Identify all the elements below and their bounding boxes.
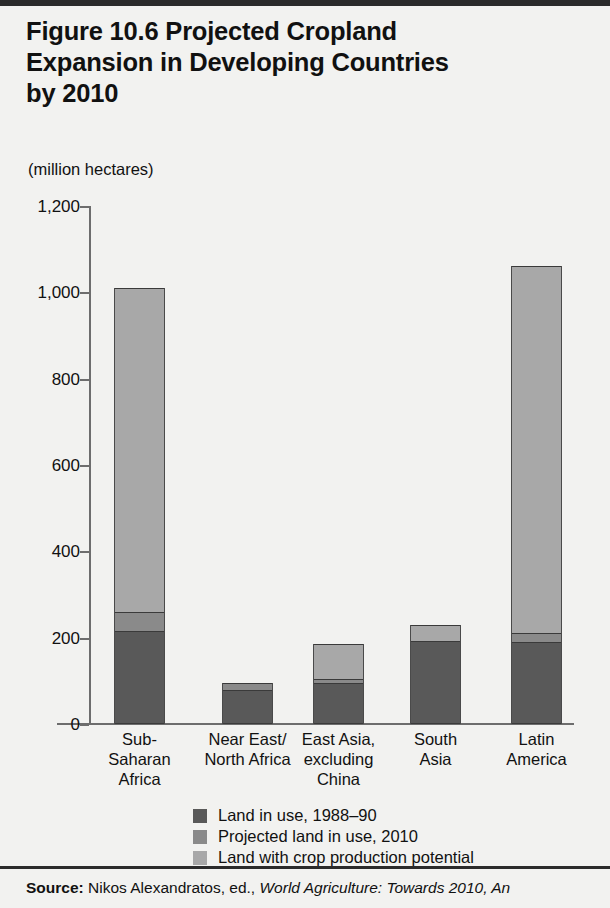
y-axis-line xyxy=(89,206,91,725)
bar-1[interactable] xyxy=(114,206,165,724)
figure-container: Figure 10.6 Projected Cropland Expansion… xyxy=(0,0,610,908)
y-axis-tick: 200 xyxy=(0,638,80,639)
bar-outline xyxy=(313,644,314,724)
category-label-line: Sub- xyxy=(80,729,200,749)
bar-segment[interactable] xyxy=(511,642,562,724)
bar-segment[interactable] xyxy=(511,266,562,633)
category-label-line: Africa xyxy=(80,769,200,789)
bar-segment[interactable] xyxy=(114,612,165,631)
chart-legend: Land in use, 1988–90Projected land in us… xyxy=(193,806,474,869)
bar-segment[interactable] xyxy=(114,631,165,724)
bar-segment[interactable] xyxy=(410,641,461,724)
y-axis-tick-mark xyxy=(80,206,89,208)
y-axis-tick: 1,000 xyxy=(0,292,80,293)
y-axis-tick-label: 1,000 xyxy=(10,283,80,303)
bar-outline xyxy=(363,644,364,724)
y-axis-tick: 1,200 xyxy=(0,206,80,207)
y-axis-tick-label: 0 xyxy=(10,715,80,735)
y-axis-tick-label: 1,200 xyxy=(10,197,80,217)
bar-segment[interactable] xyxy=(511,633,562,642)
y-axis-tick-mark xyxy=(80,638,89,640)
source-note: Source: Nikos Alexandratos, ed., World A… xyxy=(26,878,510,897)
source-title: World Agriculture: Towards 2010, An xyxy=(259,879,510,896)
legend-label: Land in use, 1988–90 xyxy=(218,806,377,825)
bar-outline xyxy=(561,266,562,724)
bar-outline xyxy=(114,288,115,724)
bar-segment[interactable] xyxy=(313,644,364,679)
y-axis-tick-mark xyxy=(80,379,89,381)
legend-label: Projected land in use, 2010 xyxy=(218,827,418,846)
bar-segment[interactable] xyxy=(313,679,364,683)
bar-outline xyxy=(410,625,411,724)
y-axis-tick: 600 xyxy=(0,465,80,466)
bar-outline xyxy=(272,683,273,724)
bar-2[interactable] xyxy=(222,206,273,724)
source-lead: Source: xyxy=(26,879,84,896)
y-axis-tick-mark xyxy=(80,292,89,294)
bar-5[interactable] xyxy=(511,206,562,724)
bar-3[interactable] xyxy=(313,206,364,724)
legend-swatch-icon xyxy=(193,830,207,844)
category-label-line: Saharan xyxy=(80,749,200,769)
y-axis-tick: 800 xyxy=(0,379,80,380)
bar-segment[interactable] xyxy=(410,625,461,641)
bar-outline xyxy=(460,625,461,724)
chart-plot: 02004006008001,0001,200 Sub-SaharanAfric… xyxy=(0,0,610,908)
y-axis-tick: 0 xyxy=(0,724,80,725)
bottom-rule xyxy=(0,866,610,869)
legend-item-land-in-use[interactable]: Land in use, 1988–90 xyxy=(193,806,474,825)
category-label-1: Sub-SaharanAfrica xyxy=(80,729,200,789)
source-author: Nikos Alexandratos, ed., xyxy=(84,879,260,896)
y-axis-tick-mark xyxy=(80,465,89,467)
category-label-line: America xyxy=(477,749,597,769)
legend-swatch-icon xyxy=(193,809,207,823)
category-label-5: LatinAmerica xyxy=(477,729,597,769)
legend-item-crop-potential[interactable]: Land with crop production potential xyxy=(193,848,474,867)
y-axis-tick-mark xyxy=(80,551,89,553)
y-axis-tick: 400 xyxy=(0,551,80,552)
bar-segment[interactable] xyxy=(222,683,273,690)
bar-4[interactable] xyxy=(410,206,461,724)
legend-swatch-icon xyxy=(193,851,207,865)
legend-label: Land with crop production potential xyxy=(218,848,474,867)
y-axis-tick-mark xyxy=(80,724,89,726)
bar-outline xyxy=(164,288,165,724)
bar-outline xyxy=(511,266,512,724)
category-label-line: Latin xyxy=(477,729,597,749)
bar-segment[interactable] xyxy=(114,288,165,612)
legend-item-projected-land[interactable]: Projected land in use, 2010 xyxy=(193,827,474,846)
category-label-line: China xyxy=(279,769,399,789)
bar-segment[interactable] xyxy=(313,683,364,724)
y-axis-tick-label: 600 xyxy=(10,456,80,476)
y-axis-tick-label: 400 xyxy=(10,542,80,562)
bar-segment[interactable] xyxy=(222,690,273,724)
y-axis-tick-label: 200 xyxy=(10,629,80,649)
bar-outline xyxy=(222,683,223,724)
y-axis-tick-label: 800 xyxy=(10,370,80,390)
